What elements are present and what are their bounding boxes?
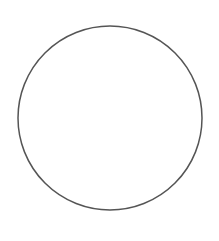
circle-figure bbox=[0, 0, 219, 241]
diagram-canvas bbox=[0, 0, 219, 241]
circle-outline bbox=[18, 26, 202, 210]
